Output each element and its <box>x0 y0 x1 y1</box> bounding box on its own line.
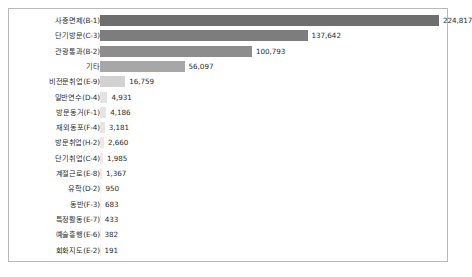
bar-fill <box>100 137 104 148</box>
bar-track: 224,817 <box>100 13 443 28</box>
bar-row: 예술흥행(E-6)382 <box>9 227 447 242</box>
bar-row: 계절근로(E-8)1,367 <box>9 166 447 181</box>
bar-track: 191 <box>100 243 443 258</box>
bar-category-label: 사증면제(B-1) <box>9 13 100 28</box>
bar-row: 동반(F-3)683 <box>9 197 447 212</box>
bar-row: 특정활동(E-7)433 <box>9 212 447 227</box>
bar-fill <box>100 30 308 41</box>
bar-track: 382 <box>100 227 443 242</box>
bar-category-label: 회화지도(E-2) <box>9 243 100 258</box>
bar-category-label: 특정활동(E-7) <box>9 212 100 227</box>
bar-category-label: 재외동포(F-4) <box>9 120 100 135</box>
bar-value-label: 3,181 <box>109 120 129 135</box>
bar-track: 950 <box>100 181 443 196</box>
bar-value-label: 433 <box>105 212 119 227</box>
bar-row: 회화지도(E-2)191 <box>9 243 447 258</box>
bar-value-label: 683 <box>105 197 119 212</box>
bar-value-label: 1,985 <box>107 151 127 166</box>
bar-track: 100,793 <box>100 44 443 59</box>
bar-track: 56,097 <box>100 59 443 74</box>
bar-fill <box>100 15 439 26</box>
bar-row: 기타56,097 <box>9 59 447 74</box>
bar-track: 1,985 <box>100 151 443 166</box>
bar-row: 방문취업(H-2)2,660 <box>9 135 447 150</box>
bar-track: 137,642 <box>100 28 443 43</box>
bar-category-label: 방문동거(F-1) <box>9 105 100 120</box>
bar-track: 4,931 <box>100 90 443 105</box>
bar-value-label: 100,793 <box>256 44 285 59</box>
bar-row: 유학(D-2)950 <box>9 181 447 196</box>
bar-category-label: 비전문취업(E-9) <box>9 74 100 89</box>
bar-category-label: 계절근로(E-8) <box>9 166 100 181</box>
bar-track: 433 <box>100 212 443 227</box>
bar-fill <box>100 107 106 118</box>
bar-value-label: 191 <box>105 243 119 258</box>
bar-track: 2,660 <box>100 135 443 150</box>
bar-value-label: 137,642 <box>312 28 341 43</box>
bar-category-label: 기타 <box>9 59 100 74</box>
bar-value-label: 16,759 <box>129 74 154 89</box>
bar-fill <box>100 46 252 57</box>
bar-value-label: 224,817 <box>443 13 472 28</box>
bar-row: 비전문취업(E-9)16,759 <box>9 74 447 89</box>
bar-category-label: 관광통과(B-2) <box>9 44 100 59</box>
bar-row: 재외동포(F-4)3,181 <box>9 120 447 135</box>
bar-category-label: 유학(D-2) <box>9 181 100 196</box>
bar-fill <box>100 122 105 133</box>
bar-category-label: 단기방문(C-3) <box>9 28 100 43</box>
bar-track: 683 <box>100 197 443 212</box>
bar-fill <box>100 183 101 194</box>
bar-category-label: 단기취업(C-4) <box>9 151 100 166</box>
bar-row: 방문동거(F-1)4,186 <box>9 105 447 120</box>
bar-fill <box>100 92 107 103</box>
bar-category-label: 동반(F-3) <box>9 197 100 212</box>
bar-chart-plot-area: 사증면제(B-1)224,817단기방문(C-3)137,642관광통과(B-2… <box>9 9 447 261</box>
bar-row: 일반연수(D-4)4,931 <box>9 90 447 105</box>
bar-value-label: 56,097 <box>189 59 214 74</box>
bar-track: 4,186 <box>100 105 443 120</box>
bar-track: 16,759 <box>100 74 443 89</box>
bar-category-label: 예술흥행(E-6) <box>9 227 100 242</box>
bar-value-label: 1,367 <box>106 166 126 181</box>
bar-fill <box>100 76 125 87</box>
bar-category-label: 방문취업(H-2) <box>9 135 100 150</box>
bar-fill <box>100 199 101 210</box>
bar-fill <box>100 229 101 240</box>
bar-fill <box>100 153 103 164</box>
bar-row: 단기취업(C-4)1,985 <box>9 151 447 166</box>
bar-value-label: 4,186 <box>110 105 130 120</box>
bar-value-label: 382 <box>105 227 119 242</box>
bar-track: 1,367 <box>100 166 443 181</box>
bar-fill <box>100 245 101 256</box>
bar-fill <box>100 168 102 179</box>
bar-value-label: 2,660 <box>108 135 128 150</box>
bar-value-label: 950 <box>105 181 119 196</box>
bar-track: 3,181 <box>100 120 443 135</box>
bar-row: 관광통과(B-2)100,793 <box>9 44 447 59</box>
bar-fill <box>100 61 185 72</box>
chart-frame: 사증면제(B-1)224,817단기방문(C-3)137,642관광통과(B-2… <box>8 8 448 262</box>
bar-row: 단기방문(C-3)137,642 <box>9 28 447 43</box>
bar-category-label: 일반연수(D-4) <box>9 90 100 105</box>
bar-fill <box>100 214 101 225</box>
bar-row: 사증면제(B-1)224,817 <box>9 13 447 28</box>
bar-value-label: 4,931 <box>111 90 131 105</box>
